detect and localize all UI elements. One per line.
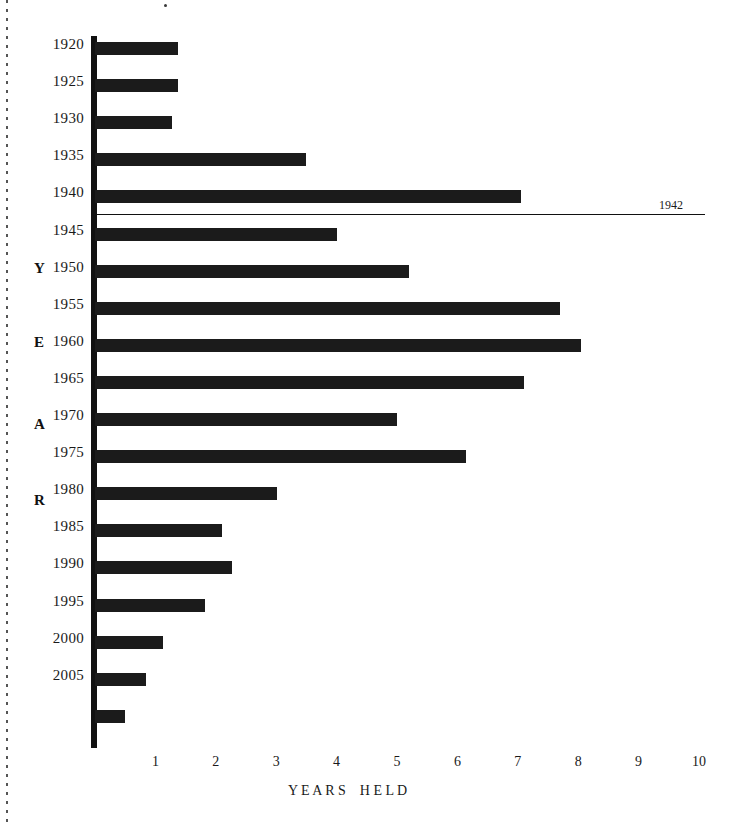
x-tick-label: 7 — [498, 755, 538, 769]
bar — [95, 413, 397, 426]
bar — [95, 450, 466, 463]
bar — [95, 42, 178, 55]
y-tick-label: 1975 — [30, 445, 84, 460]
y-tick-label: 1965 — [30, 371, 84, 386]
y-axis-title-letter: Y — [34, 261, 45, 276]
bar — [95, 79, 178, 92]
x-tick-label: 4 — [317, 755, 357, 769]
y-axis-title-letter: A — [34, 417, 45, 432]
bar — [95, 302, 560, 315]
y-tick-label: 1985 — [30, 519, 84, 534]
annotation-label-1942: 1942 — [659, 199, 683, 211]
bar — [95, 228, 337, 241]
bar-chart-plot: 1920192519301935194019451950195519601965… — [0, 0, 751, 823]
x-axis-title: Y E A R S H E L D — [288, 783, 407, 799]
bar — [95, 636, 163, 649]
annotation-line-1942 — [92, 214, 705, 215]
x-tick-label: 1 — [135, 755, 175, 769]
bar — [95, 339, 581, 352]
y-tick-label: 1995 — [30, 594, 84, 609]
x-tick-label: 2 — [196, 755, 236, 769]
x-tick-label: 9 — [619, 755, 659, 769]
y-tick-label: 1935 — [30, 148, 84, 163]
y-tick-label: 1930 — [30, 111, 84, 126]
chart-page: 1920192519301935194019451950195519601965… — [0, 0, 751, 823]
bar — [95, 116, 172, 129]
bar — [95, 487, 277, 500]
y-tick-label: 2000 — [30, 631, 84, 646]
x-tick-label: 3 — [256, 755, 296, 769]
bar — [95, 524, 222, 537]
x-tick-label: 8 — [558, 755, 598, 769]
x-tick-label: 10 — [679, 755, 719, 769]
x-tick-label: 5 — [377, 755, 417, 769]
bar — [95, 599, 205, 612]
y-axis-title-letter: R — [34, 493, 45, 508]
bar — [95, 710, 125, 723]
y-tick-label: 1920 — [30, 37, 84, 52]
y-tick-label: 1955 — [30, 297, 84, 312]
y-tick-label: 1990 — [30, 556, 84, 571]
y-tick-label: 2005 — [30, 668, 84, 683]
bar — [95, 153, 306, 166]
bar — [95, 376, 524, 389]
bar — [95, 561, 232, 574]
y-axis-title-letter: E — [34, 335, 44, 350]
x-tick-label: 6 — [437, 755, 477, 769]
y-tick-label: 1925 — [30, 74, 84, 89]
y-tick-label: 1940 — [30, 185, 84, 200]
bar — [95, 265, 409, 278]
y-tick-label: 1945 — [30, 223, 84, 238]
bar — [95, 673, 146, 686]
bar — [95, 190, 521, 203]
